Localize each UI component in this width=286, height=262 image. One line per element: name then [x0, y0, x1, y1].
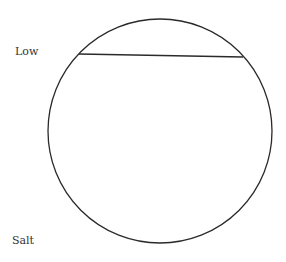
- circle-outline: [48, 19, 272, 243]
- label-salt: Salt: [12, 235, 34, 246]
- label-low: Low: [15, 46, 38, 57]
- horizontal-chord: [79, 54, 243, 57]
- diagram-canvas: [0, 0, 286, 262]
